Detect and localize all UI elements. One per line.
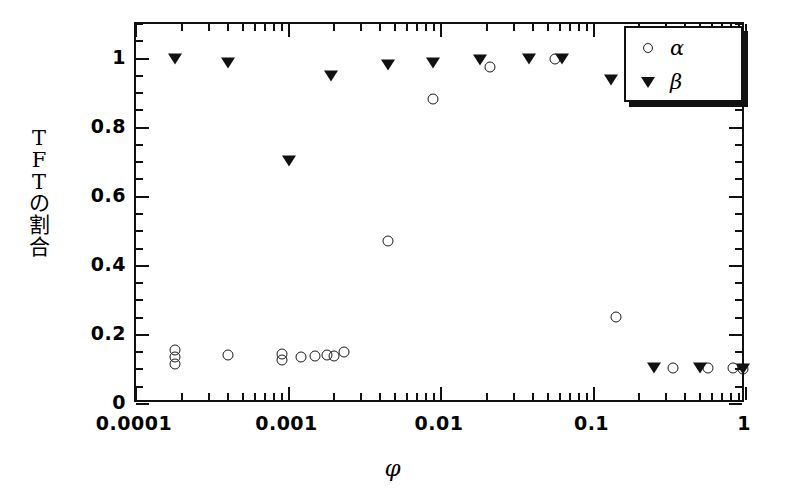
data-point-beta: [221, 57, 235, 68]
y-tick-minor-right: [735, 386, 742, 388]
y-tick-minor-right: [735, 144, 742, 146]
x-tick-minor-top: [569, 24, 571, 31]
x-tick-minor: [406, 393, 408, 400]
x-tick-minor: [281, 393, 283, 400]
y-tick-minor-right: [735, 109, 742, 111]
data-point-beta: [522, 53, 536, 64]
data-point-alpha: [276, 354, 287, 365]
y-tick-minor-right: [735, 351, 742, 353]
x-tick-label: 0.1: [574, 412, 609, 434]
x-tick-minor-top: [406, 24, 408, 31]
x-tick-minor-top: [578, 24, 580, 31]
x-tick-minor: [638, 393, 640, 400]
data-point-beta: [282, 156, 296, 167]
x-tick-minor: [569, 393, 571, 400]
y-tick-minor: [136, 282, 143, 284]
legend-label-beta: β: [670, 70, 682, 94]
x-tick-minor: [181, 393, 183, 400]
y-axis-title-char: F: [22, 150, 56, 172]
y-tick-major: [136, 127, 149, 129]
y-tick-minor: [136, 178, 143, 180]
x-tick-major: [135, 387, 137, 400]
x-tick-minor-top: [486, 24, 488, 31]
y-axis-title-char: T: [22, 172, 56, 194]
y-tick-minor: [136, 213, 143, 215]
x-tick-minor: [227, 393, 229, 400]
y-axis-title-char: の: [22, 193, 56, 215]
x-tick-minor: [699, 393, 701, 400]
x-tick-minor-top: [547, 24, 549, 31]
x-tick-minor-top: [208, 24, 210, 31]
y-tick-label: 0.8: [58, 115, 126, 137]
x-tick-minor: [486, 393, 488, 400]
y-tick-major-right: [729, 196, 742, 198]
x-tick-label: 0.001: [255, 412, 318, 434]
y-axis-title: TFTの割合: [22, 128, 56, 259]
y-tick-minor-right: [735, 230, 742, 232]
x-tick-major: [288, 387, 290, 400]
x-tick-major: [745, 387, 747, 400]
legend-label-alpha: α: [670, 36, 684, 60]
data-point-alpha: [222, 349, 233, 360]
data-point-beta: [324, 70, 338, 81]
x-tick-minor: [379, 393, 381, 400]
x-tick-major-top: [440, 24, 442, 37]
x-tick-minor: [559, 393, 561, 400]
x-tick-minor-top: [559, 24, 561, 31]
x-tick-minor-top: [281, 24, 283, 31]
x-tick-minor: [532, 393, 534, 400]
y-tick-major-right: [729, 403, 742, 405]
x-tick-minor: [578, 393, 580, 400]
x-tick-minor: [208, 393, 210, 400]
x-tick-minor: [730, 393, 732, 400]
data-point-beta: [555, 53, 569, 64]
data-point-beta: [647, 362, 661, 373]
x-tick-minor-top: [333, 24, 335, 31]
x-tick-minor: [394, 393, 396, 400]
y-tick-minor: [136, 109, 143, 111]
x-tick-minor: [264, 393, 266, 400]
y-tick-minor: [136, 144, 143, 146]
y-tick-minor: [136, 23, 143, 25]
x-tick-minor: [547, 393, 549, 400]
legend-entry-beta: β: [626, 66, 741, 98]
x-tick-major-top: [135, 24, 137, 37]
y-tick-major-right: [729, 334, 742, 336]
y-tick-minor-right: [735, 299, 742, 301]
y-tick-major: [136, 334, 149, 336]
x-axis-title: φ: [0, 455, 785, 481]
data-point-beta: [168, 54, 182, 65]
y-axis-title-char: 割: [22, 215, 56, 237]
y-tick-major-right: [729, 127, 742, 129]
y-tick-minor-right: [735, 317, 742, 319]
x-tick-minor: [254, 393, 256, 400]
x-tick-minor-top: [425, 24, 427, 31]
y-tick-major: [136, 196, 149, 198]
x-tick-major-top: [288, 24, 290, 37]
x-tick-minor: [684, 393, 686, 400]
x-tick-minor-top: [181, 24, 183, 31]
data-point-alpha: [427, 93, 438, 104]
data-point-alpha: [383, 235, 394, 246]
x-tick-major-top: [745, 24, 747, 37]
x-tick-minor: [360, 393, 362, 400]
y-tick-label: 0.6: [58, 184, 126, 206]
x-tick-minor-top: [242, 24, 244, 31]
y-tick-major: [136, 58, 149, 60]
x-tick-minor-top: [532, 24, 534, 31]
data-point-beta: [473, 54, 487, 65]
y-axis-title-char: T: [22, 128, 56, 150]
y-tick-minor-right: [735, 248, 742, 250]
x-tick-minor-top: [379, 24, 381, 31]
x-tick-minor-top: [513, 24, 515, 31]
x-tick-label: 0.01: [415, 412, 464, 434]
x-tick-minor-top: [586, 24, 588, 31]
x-tick-major-top: [593, 24, 595, 37]
x-tick-minor-top: [416, 24, 418, 31]
x-tick-minor: [416, 393, 418, 400]
data-point-beta: [736, 364, 750, 375]
y-tick-minor-right: [735, 178, 742, 180]
legend-box: α β: [624, 26, 743, 102]
y-tick-minor: [136, 299, 143, 301]
y-tick-minor: [136, 317, 143, 319]
